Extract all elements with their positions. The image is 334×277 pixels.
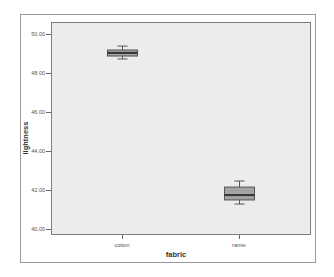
box-ramie <box>225 187 255 200</box>
boxplot-layer <box>0 0 334 277</box>
